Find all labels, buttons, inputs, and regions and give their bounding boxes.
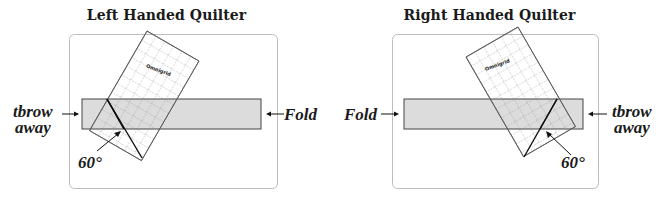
throw-away-label: tbrow away (612, 104, 652, 136)
fold-label: Fold (284, 107, 317, 123)
left-diagram: Omnigrid (0, 0, 333, 202)
arrow-icon (266, 112, 284, 117)
arrow-icon (62, 112, 79, 117)
throw-away-label: tbrow away (13, 104, 53, 136)
fold-label: Fold (344, 107, 377, 123)
right-diagram: Omnigrid (333, 0, 667, 202)
ruler: Omnigrid (90, 31, 199, 161)
right-handed-panel: Right Handed Quilter Omnigrid Fold (333, 0, 666, 202)
angle-label: 60° (561, 155, 585, 171)
angle-label: 60° (78, 155, 102, 171)
left-handed-panel: Left Handed Quilter Omnigrid (0, 0, 333, 202)
ruler: Omnigrid (466, 27, 575, 157)
arrow-icon (381, 112, 399, 117)
arrow-icon (588, 112, 607, 117)
